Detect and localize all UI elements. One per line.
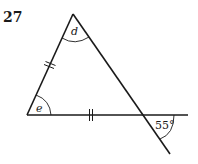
angle-label-d: d bbox=[71, 25, 78, 38]
triangle-left-side bbox=[27, 14, 73, 115]
angle-label-55: 55° bbox=[155, 119, 175, 132]
triangle-diagram: d e 55° bbox=[0, 0, 198, 164]
transversal-line bbox=[73, 14, 170, 154]
angle-label-e: e bbox=[36, 102, 43, 115]
diagram-canvas: 27 d e 55° bbox=[0, 0, 198, 164]
